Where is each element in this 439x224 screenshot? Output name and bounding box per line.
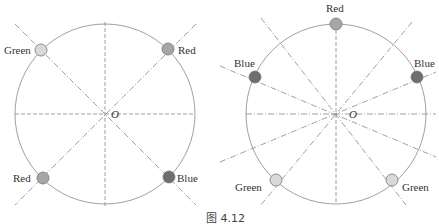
diagram-canvas: Green Red Red Blue O Red Blue Blue Green… xyxy=(0,0,439,224)
left-label-blue: Blue xyxy=(177,172,198,184)
left-point-blue xyxy=(163,171,175,183)
right-point-blue-left xyxy=(249,71,261,83)
left-label-red-top: Red xyxy=(178,44,196,56)
right-label-green-left: Green xyxy=(235,181,262,193)
right-label-blue-right: Blue xyxy=(414,57,435,69)
right-point-blue-right xyxy=(411,71,423,83)
right-point-red xyxy=(330,18,342,30)
left-center-label: O xyxy=(111,108,119,120)
left-label-green: Green xyxy=(4,44,31,56)
right-line-blue-right xyxy=(220,72,436,162)
left-point-green xyxy=(35,44,47,56)
right-diagram xyxy=(220,18,436,206)
right-label-green-right: Green xyxy=(402,181,429,193)
right-label-red: Red xyxy=(326,2,344,14)
right-point-green-left xyxy=(270,174,282,186)
right-label-blue-left: Blue xyxy=(234,57,255,69)
left-point-red-top xyxy=(162,43,174,55)
left-point-red-bottom xyxy=(37,172,49,184)
right-center-label: O xyxy=(349,108,357,120)
figure-caption: 图 4.12 xyxy=(206,212,245,224)
right-point-green-right xyxy=(386,174,398,186)
left-label-red-bottom: Red xyxy=(13,172,31,184)
right-line-green-right xyxy=(261,18,406,205)
